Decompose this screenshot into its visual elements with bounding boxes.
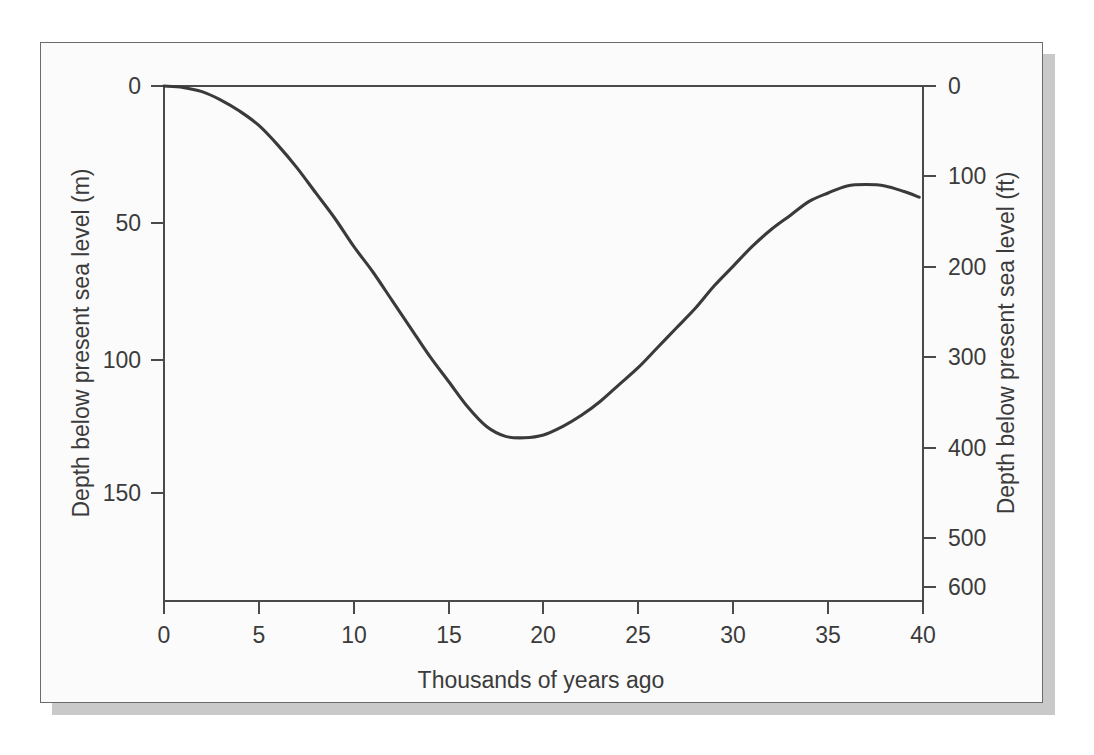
bottom-tick-label-40: 40 [910, 622, 936, 648]
figure-frame: 0 50 100 150 Depth below present sea lev… [40, 42, 1043, 703]
bottom-tick-label-20: 20 [530, 622, 556, 648]
sea-level-chart: 0 50 100 150 Depth below present sea lev… [41, 43, 1041, 701]
right-tick-label-400: 400 [948, 435, 986, 461]
left-tick-label-0: 0 [128, 73, 141, 99]
bottom-tick-label-35: 35 [815, 622, 841, 648]
bottom-tick-label-10: 10 [341, 622, 367, 648]
right-tick-label-300: 300 [948, 344, 986, 370]
left-axis-title: Depth below present sea level (m) [68, 169, 94, 518]
left-tick-label-100: 100 [103, 347, 141, 373]
right-tick-label-500: 500 [948, 525, 986, 551]
bottom-tick-label-0: 0 [158, 622, 171, 648]
right-tick-label-200: 200 [948, 254, 986, 280]
figure-root: 0 50 100 150 Depth below present sea lev… [0, 0, 1094, 755]
bottom-tick-label-30: 30 [720, 622, 746, 648]
bottom-tick-label-25: 25 [625, 622, 651, 648]
right-axis: 0 100 200 300 400 500 600 Depth below pr… [923, 73, 1019, 601]
right-tick-label-600: 600 [948, 574, 986, 600]
left-axis: 0 50 100 150 Depth below present sea lev… [68, 73, 164, 601]
sea-level-curve [164, 86, 919, 438]
right-axis-title: Depth below present sea level (ft) [993, 172, 1019, 515]
bottom-tick-label-15: 15 [436, 622, 462, 648]
bottom-axis: 0 5 10 15 20 25 30 35 40 Thousands of ye… [158, 601, 936, 693]
left-tick-label-50: 50 [115, 210, 141, 236]
bottom-tick-label-5: 5 [253, 622, 266, 648]
bottom-axis-title: Thousands of years ago [418, 667, 665, 693]
right-tick-label-100: 100 [948, 163, 986, 189]
left-tick-label-150: 150 [103, 480, 141, 506]
right-tick-label-0: 0 [948, 73, 961, 99]
